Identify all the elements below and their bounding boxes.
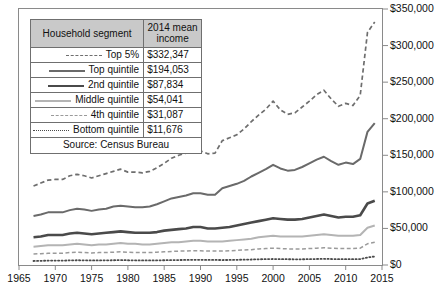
legend-row: Bottom quintile$11,676 <box>31 123 202 138</box>
legend-segment-cell: Bottom quintile <box>31 123 144 138</box>
legend-segment-label: Bottom quintile <box>73 124 139 135</box>
y-tick-label: $150,000 <box>390 149 434 159</box>
legend-row: Top 5%$332,347 <box>31 48 202 63</box>
y-tick-label: $50,000 <box>390 222 428 232</box>
legend-line-swatch-icon <box>51 111 87 119</box>
legend-header-income: 2014 mean income <box>144 20 202 48</box>
legend-segment-cell: Top quintile <box>31 63 144 78</box>
x-tick-label: 1990 <box>189 272 212 284</box>
legend-income-value: $31,087 <box>144 108 202 123</box>
legend-row: Top quintile$194,053 <box>31 63 202 78</box>
x-tick-label: 2005 <box>298 272 321 284</box>
x-tick-label: 2010 <box>334 272 357 284</box>
legend-segment-cell: Top 5% <box>31 48 144 63</box>
y-tick-label: $100,000 <box>390 186 434 196</box>
x-tick-label: 1965 <box>7 272 30 284</box>
legend-segment-cell: Middle quintile <box>31 93 144 108</box>
legend-line-swatch-icon <box>48 81 84 89</box>
legend-income-value: $11,676 <box>144 123 202 138</box>
legend-source-row: Source: Census Bureau <box>31 138 202 154</box>
legend-segment-label: Top 5% <box>106 49 139 60</box>
legend-income-value: $194,053 <box>144 63 202 78</box>
legend-segment-label: 4th quintile <box>91 109 139 120</box>
x-tick-label: 1995 <box>225 272 248 284</box>
legend-line-swatch-icon <box>33 126 69 134</box>
y-tick-label: $250,000 <box>390 76 434 86</box>
x-tick-label: 1985 <box>153 272 176 284</box>
legend-row: Middle quintile$54,041 <box>31 93 202 108</box>
legend-segment-label: Middle quintile <box>75 94 139 105</box>
y-tick-label: $200,000 <box>390 113 434 123</box>
legend-source-label: Source: Census Bureau <box>31 138 202 154</box>
legend-income-value: $87,834 <box>144 78 202 93</box>
legend-header-segment: Household segment <box>31 20 144 48</box>
income-quintile-line-chart: $0$50,000$100,000$150,000$200,000$250,00… <box>0 0 443 302</box>
y-tick-label: $350,000 <box>390 3 434 13</box>
legend-line-swatch-icon <box>49 66 85 74</box>
y-tick-label: $0 <box>390 259 402 269</box>
series-line <box>34 256 375 261</box>
legend-segment-cell: 4th quintile <box>31 108 144 123</box>
legend-segment-cell: 2nd quintile <box>31 78 144 93</box>
x-tick-label: 1980 <box>116 272 139 284</box>
legend-line-swatch-icon <box>66 51 102 59</box>
x-tick-label: 2015 <box>370 272 393 284</box>
x-tick-label: 1970 <box>44 272 67 284</box>
legend-segment-label: 2nd quintile <box>88 79 139 90</box>
x-tick-label: 2000 <box>261 272 284 284</box>
legend-income-value: $332,347 <box>144 48 202 63</box>
series-line <box>34 201 375 237</box>
legend-row: 4th quintile$31,087 <box>31 108 202 123</box>
legend-row: 2nd quintile$87,834 <box>31 78 202 93</box>
legend-income-value: $54,041 <box>144 93 202 108</box>
legend-line-swatch-icon <box>35 96 71 104</box>
x-tick-label: 1975 <box>80 272 103 284</box>
y-tick-label: $300,000 <box>390 40 434 50</box>
legend-table: Household segment 2014 mean income Top 5… <box>30 19 202 154</box>
legend-segment-label: Top quintile <box>89 64 140 75</box>
legend-header-row: Household segment 2014 mean income <box>31 20 202 48</box>
